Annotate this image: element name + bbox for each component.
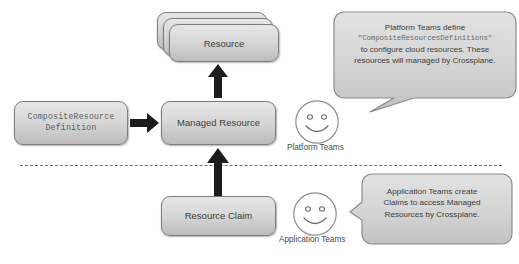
resource-claim-box: Resource Claim [161,196,276,236]
managed-resource-box: Managed Resource [161,101,276,145]
platform-callout-code: "CompositeResourcesDefinitions" [336,33,514,44]
application-callout-line-3: Resources by Crossplane. [356,209,508,220]
platform-teams-callout-text: Platform Teams define "CompositeResource… [336,22,514,67]
platform-teams-label: Platform Teams [287,143,344,152]
platform-callout-line-4: resources will managed by Crossplane. [336,55,514,66]
platform-callout-line-1: Platform Teams define [336,22,514,33]
application-callout-line-2: Claims to access Managed [356,197,508,208]
crossplane-architecture-diagram: Resource CompositeResource Definition Ma… [0,0,519,264]
composite-resource-definition-box: CompositeResource Definition [14,101,128,145]
platform-callout-line-3: to configure cloud resources. These [336,44,514,55]
application-callout-line-1: Application Teams create [356,186,508,197]
application-teams-smiley-face-icon [292,191,338,241]
application-teams-label: Application Teams [279,235,345,244]
arrow-up-managed-resource-to-resource [207,64,229,98]
team-boundary-dashed-divider [20,165,502,166]
arrow-up-claim-to-managed-resource [205,148,231,196]
arrow-right-crd-to-managed-resource [130,112,160,134]
resource-box: Resource [169,24,279,62]
application-teams-callout-text: Application Teams create Claims to acces… [356,186,508,220]
